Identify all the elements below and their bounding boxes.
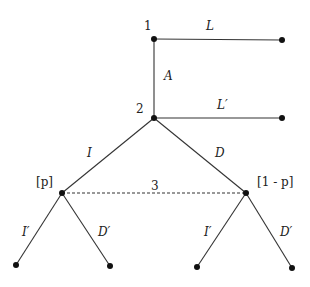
node-3-left bbox=[59, 190, 65, 196]
terminal-L-prime bbox=[279, 115, 285, 121]
player-1-label: 1 bbox=[144, 20, 152, 32]
edge-I-label: I bbox=[87, 147, 92, 159]
edge-D-prime-left-label: D′ bbox=[98, 226, 110, 238]
terminal-right-D-prime bbox=[289, 265, 295, 271]
belief-p-label: [p] bbox=[36, 176, 53, 188]
edge-I-prime-left-label: I′ bbox=[22, 226, 29, 238]
terminal-left-I-prime bbox=[13, 262, 19, 268]
belief-1-minus-p-label: [1 - p] bbox=[257, 176, 293, 188]
edge-I-prime-right-label: I′ bbox=[204, 226, 211, 238]
edge-L bbox=[154, 39, 282, 40]
terminal-left-D-prime bbox=[107, 263, 113, 269]
edge-L-label: L bbox=[206, 20, 214, 32]
edge-D-prime-right-label: D′ bbox=[280, 226, 292, 238]
player-2-label: 2 bbox=[136, 103, 144, 115]
edge-L-prime-label: L′ bbox=[217, 99, 228, 111]
edge-I bbox=[62, 118, 154, 193]
edge-D-label: D bbox=[215, 147, 225, 159]
node-1 bbox=[151, 36, 157, 42]
edge-D bbox=[154, 118, 246, 193]
node-2 bbox=[151, 115, 157, 121]
node-3-right bbox=[243, 190, 249, 196]
terminal-L bbox=[279, 37, 285, 43]
player-3-label: 3 bbox=[151, 180, 159, 192]
terminal-right-I-prime bbox=[194, 264, 200, 270]
game-tree bbox=[0, 0, 310, 287]
edge-A-label: A bbox=[164, 70, 173, 82]
